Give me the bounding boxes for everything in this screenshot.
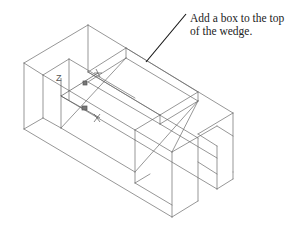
ucs-z-label: Z: [56, 73, 62, 83]
callout-leader-line: [146, 14, 186, 62]
callout-line-1: Add a box to the top: [190, 12, 306, 25]
ucs-icon-bottom: [61, 96, 100, 122]
ucs-icon-top: [61, 69, 102, 96]
callout-line-2: of the wedge.: [190, 25, 306, 38]
callout-text: Add a box to the top of the wedge.: [190, 12, 306, 38]
solid-wireframe: [24, 25, 233, 217]
